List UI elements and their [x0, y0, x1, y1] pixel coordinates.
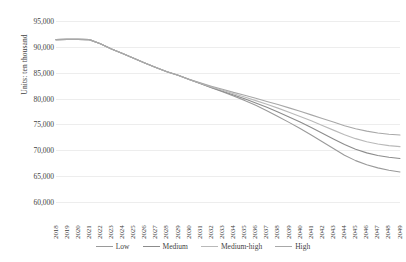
- y-tick-label: 90,000: [33, 42, 54, 51]
- legend-line-icon: [143, 246, 160, 248]
- series-line-medium: [56, 39, 400, 158]
- x-tick-label: 2035: [240, 225, 248, 239]
- x-tick-label: 2025: [129, 225, 137, 239]
- x-tick-label: 2026: [140, 225, 148, 239]
- x-tick-label: 2047: [373, 225, 381, 239]
- x-tick-label: 2022: [96, 225, 104, 239]
- y-tick-label: 75,000: [33, 120, 54, 129]
- y-tick-label: 80,000: [33, 94, 54, 103]
- x-axis-tick-labels: 2018201920202021202220232024202520262027…: [56, 203, 400, 239]
- y-tick-label: 70,000: [33, 146, 54, 155]
- y-tick-label: 85,000: [33, 68, 54, 77]
- legend-label: Medium: [163, 242, 188, 251]
- series-line-low: [56, 39, 400, 172]
- x-tick-label: 2034: [229, 225, 237, 239]
- legend-label: Medium-high: [221, 242, 262, 251]
- legend-item-medium[interactable]: Medium: [143, 242, 188, 251]
- legend-line-icon: [201, 246, 218, 248]
- x-tick-label: 2041: [307, 225, 315, 239]
- x-tick-label: 2043: [329, 225, 337, 239]
- x-tick-label: 2037: [262, 225, 270, 239]
- legend-item-medium-high[interactable]: Medium-high: [201, 242, 262, 251]
- legend-item-high[interactable]: High: [275, 242, 310, 251]
- legend-line-icon: [96, 246, 113, 248]
- x-tick-label: 2020: [74, 225, 82, 239]
- x-tick-label: 2032: [207, 225, 215, 239]
- x-tick-label: 2048: [384, 225, 392, 239]
- x-tick-label: 2038: [273, 225, 281, 239]
- x-tick-label: 2023: [107, 225, 115, 239]
- x-tick-label: 2046: [362, 225, 370, 239]
- x-tick-label: 2029: [174, 225, 182, 239]
- y-tick-label: 95,000: [33, 17, 54, 26]
- y-tick-label: 65,000: [33, 172, 54, 181]
- line-chart: Units: ten thousand 60,00065,00070,00075…: [0, 0, 406, 262]
- x-tick-label: 2028: [162, 225, 170, 239]
- legend-label: High: [295, 242, 310, 251]
- x-tick-label: 2019: [63, 225, 71, 239]
- x-tick-label: 2030: [185, 225, 193, 239]
- x-tick-label: 2044: [340, 225, 348, 239]
- y-axis-tick-labels: 60,00065,00070,00075,00080,00085,00090,0…: [12, 0, 54, 262]
- x-tick-label: 2031: [196, 225, 204, 239]
- x-tick-label: 2033: [218, 225, 226, 239]
- legend-item-low[interactable]: Low: [96, 242, 130, 251]
- x-tick-label: 2045: [351, 225, 359, 239]
- chart-legend: LowMediumMedium-highHigh: [0, 242, 406, 251]
- plot-area: [56, 21, 400, 202]
- x-tick-label: 2042: [318, 225, 326, 239]
- x-tick-label: 2024: [118, 225, 126, 239]
- x-tick-label: 2040: [296, 225, 304, 239]
- series-lines: [56, 21, 400, 202]
- y-tick-label: 60,000: [33, 198, 54, 207]
- legend-label: Low: [116, 242, 130, 251]
- x-tick-label: 2036: [251, 225, 259, 239]
- legend-line-icon: [275, 246, 292, 248]
- x-tick-label: 2021: [85, 225, 93, 239]
- series-line-high: [56, 39, 400, 135]
- x-tick-label: 2049: [396, 225, 404, 239]
- x-tick-label: 2018: [52, 225, 60, 239]
- x-tick-label: 2027: [151, 225, 159, 239]
- x-tick-label: 2039: [285, 225, 293, 239]
